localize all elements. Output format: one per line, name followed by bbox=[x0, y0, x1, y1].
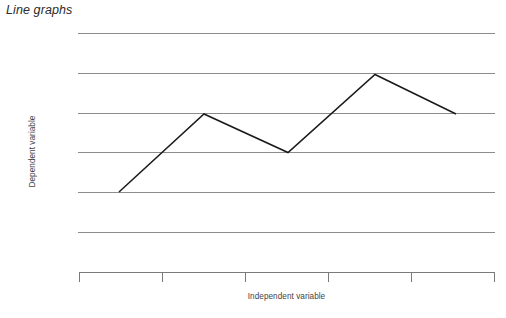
gridlines bbox=[78, 34, 495, 233]
x-axis-label: Independent variable bbox=[78, 292, 495, 301]
line-graph-figure: Line graphs Dependent variable Independe… bbox=[0, 0, 506, 318]
y-axis-label: Dependent variable bbox=[28, 87, 37, 217]
x-axis bbox=[79, 273, 495, 283]
data-series-line bbox=[119, 75, 456, 193]
plot-canvas bbox=[0, 0, 506, 318]
